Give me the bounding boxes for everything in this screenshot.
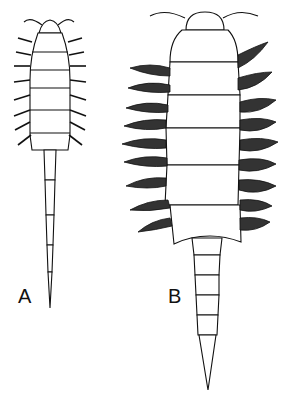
antenna-left-a [24,20,42,25]
head-b [186,12,224,30]
pronotum-b [170,30,238,62]
panel-label-b: B [168,285,181,308]
antenna-left-b [150,12,185,18]
panel-label-a: A [18,285,31,308]
larva-a [14,20,86,308]
figure-canvas [0,0,288,397]
antenna-right-b [223,12,258,18]
antenna-right-a [58,20,74,25]
larva-b [122,12,278,390]
head-a [39,20,61,33]
